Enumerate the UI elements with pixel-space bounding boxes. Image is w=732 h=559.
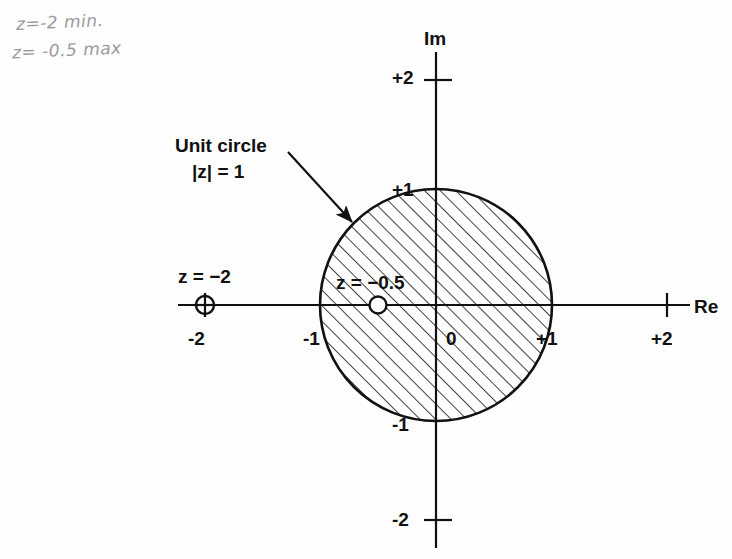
tick-label-re-minus1: -1	[303, 328, 320, 350]
tick-label-im-plus2: +2	[392, 67, 414, 89]
axis-label-real: Re	[694, 296, 718, 318]
axis-label-imaginary: Im	[424, 28, 446, 50]
tick-label-re-plus2: +2	[651, 328, 673, 350]
callout-label-unit-circle: Unit circle	[175, 135, 267, 157]
marker-z-minus-2	[193, 293, 217, 317]
complex-plane-figure: z=-2 min. z= -0.5 max	[0, 0, 732, 559]
callout-label-modulus: |z| = 1	[192, 161, 244, 183]
callout-arrow	[288, 152, 352, 222]
tick-label-im-minus2: -2	[392, 509, 409, 531]
point-label-z-minus-0p5: z = −0.5	[336, 272, 405, 294]
marker-z-minus-0p5	[370, 297, 387, 314]
tick-label-im-plus1: +1	[392, 179, 414, 201]
tick-label-im-minus1: -1	[392, 414, 409, 436]
tick-label-re-minus2: -2	[188, 328, 205, 350]
tick-label-re-plus1: +1	[536, 328, 558, 350]
tick-label-origin: 0	[446, 328, 457, 350]
point-label-z-minus-2: z = −2	[178, 266, 231, 288]
